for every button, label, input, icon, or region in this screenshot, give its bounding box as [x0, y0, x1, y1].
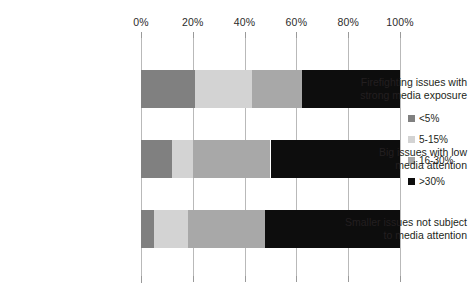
bar-segment: [193, 140, 271, 178]
x-tick-label-100: 100%: [386, 16, 414, 28]
legend-label: 5-15%: [419, 134, 448, 145]
axis-tick-mark: [193, 276, 194, 282]
x-tick-label-0: 0%: [133, 16, 149, 28]
legend-item[interactable]: <5%: [408, 108, 472, 129]
category-label-line: Big issues with low: [337, 146, 467, 159]
category-label-line: Smaller issues not subject: [337, 216, 467, 229]
legend-label: <5%: [419, 113, 439, 124]
bar-segment: [172, 140, 193, 178]
axis-tick-mark: [400, 276, 401, 282]
category-label-line: Firefighting issues with: [337, 76, 467, 89]
axis-tick-mark: [141, 276, 142, 282]
x-tick-label-80: 80%: [337, 16, 359, 28]
category-label-line: strong media exposure: [337, 89, 467, 102]
category-label: Smaller issues not subjectto media atten…: [337, 216, 473, 242]
category-label-line: to media attention: [337, 229, 467, 242]
bar-segment: [141, 140, 172, 178]
axis-tick-mark: [348, 276, 349, 282]
legend-label: >30%: [419, 176, 445, 187]
axis-tick-mark: [296, 276, 297, 282]
x-axis-tick-labels: 0%20%40%60%80%100%: [0, 16, 473, 32]
bar-segment: [195, 70, 252, 108]
x-axis-tick-marks-bottom: [141, 276, 400, 283]
x-tick-label-20: 20%: [182, 16, 204, 28]
bar-segment: [141, 210, 154, 248]
legend-swatch-icon: [408, 136, 415, 143]
bar-segment: [252, 70, 301, 108]
bar-segment: [188, 210, 266, 248]
bar-segment: [154, 210, 188, 248]
axis-tick-mark: [245, 276, 246, 282]
x-tick-label-60: 60%: [286, 16, 308, 28]
category-label-line: media attention: [337, 159, 467, 172]
legend-item[interactable]: >30%: [408, 171, 472, 192]
legend-swatch-icon: [408, 115, 415, 122]
category-label: Firefighting issues withstrong media exp…: [337, 76, 473, 102]
legend-swatch-icon: [408, 178, 415, 185]
category-label: Big issues with lowmedia attention: [337, 146, 473, 172]
x-tick-label-40: 40%: [234, 16, 256, 28]
stacked-bar-chart: 0%20%40%60%80%100% <5%5-15%16-30%>30% Fi…: [0, 0, 473, 288]
bar-segment: [141, 70, 195, 108]
